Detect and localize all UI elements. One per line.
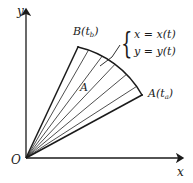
point-a-subscript: a xyxy=(165,93,169,101)
point-b-label-text: B(t xyxy=(73,25,90,38)
point-a-label-text: A(t xyxy=(148,87,165,100)
parametric-equations-list: x = x(t) y = y(t) xyxy=(134,29,176,57)
x-axis-label: x xyxy=(177,166,184,178)
ray-to-point-a xyxy=(26,95,142,158)
parametric-equations-block: { x = x(t) y = y(t) xyxy=(121,29,176,57)
area-label: A xyxy=(80,82,88,93)
point-b-marker xyxy=(77,46,79,48)
point-b-label: B(tb) xyxy=(73,26,98,37)
point-a-label: A(ta) xyxy=(148,88,173,99)
point-a-marker xyxy=(141,94,143,96)
equation-y: y = y(t) xyxy=(134,46,176,57)
leader-line xyxy=(100,45,120,66)
left-brace-glyph: { xyxy=(121,30,132,56)
y-axis-label: y xyxy=(17,5,24,17)
parametric-sector-figure: y x O B(tb) A(ta) A { x = x(t) y = y(t) xyxy=(0,0,193,183)
origin-label: O xyxy=(11,154,21,166)
sector-outline xyxy=(26,47,142,158)
sector-hatching xyxy=(27,44,164,157)
equation-x: x = x(t) xyxy=(134,29,176,40)
point-b-subscript: b xyxy=(90,31,94,39)
